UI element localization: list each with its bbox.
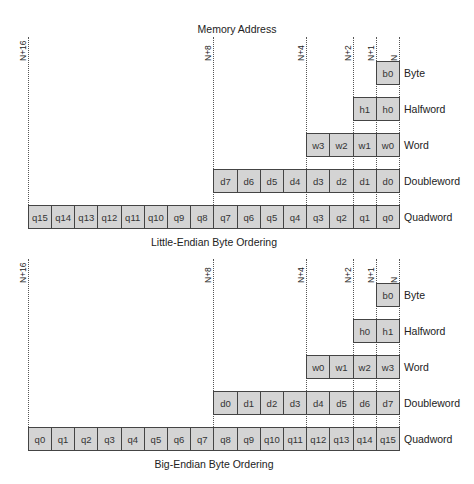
- big-endian-cell-b0: b0: [376, 283, 400, 307]
- little-endian-row-label-quadword: Quadword: [404, 205, 452, 229]
- little-endian-cell-q0: q0: [376, 205, 400, 229]
- little-endian-row-label-halfword: Halfword: [404, 97, 445, 121]
- big-endian-cell-d4: d4: [306, 391, 330, 415]
- little-endian-cell-q5: q5: [260, 205, 284, 229]
- big-endian-cell-d0: d0: [213, 391, 237, 415]
- little-endian-cell-q8: q8: [190, 205, 214, 229]
- little-endian-cell-d0: d0: [376, 169, 400, 193]
- big-endian-cell-h1: h1: [376, 319, 400, 343]
- big-endian-cell-q0: q0: [28, 427, 52, 451]
- little-endian-cell-q14: q14: [51, 205, 75, 229]
- big-endian-cell-d6: d6: [353, 391, 377, 415]
- little-endian-address-marker: N+4: [296, 45, 306, 61]
- little-endian-cell-q9: q9: [167, 205, 191, 229]
- big-endian-cell-h0: h0: [353, 319, 377, 343]
- big-endian-cell-d2: d2: [260, 391, 284, 415]
- little-endian-address-marker: N+16: [18, 40, 28, 61]
- big-endian-caption: Big-Endian Byte Ordering: [154, 458, 273, 470]
- big-endian-cell-q7: q7: [190, 427, 214, 451]
- big-endian-cell-q3: q3: [97, 427, 121, 451]
- little-endian-cell-d5: d5: [260, 169, 284, 193]
- big-endian-address-marker: N+16: [18, 262, 28, 283]
- little-endian-cell-w3: w3: [306, 133, 330, 157]
- little-endian-cell-q10: q10: [144, 205, 168, 229]
- big-endian-cell-w0: w0: [306, 355, 330, 379]
- little-endian-address-marker: N+8: [203, 45, 213, 61]
- big-endian-cell-q9: q9: [237, 427, 261, 451]
- big-endian-cell-q12: q12: [306, 427, 330, 451]
- big-endian-address-marker: N+1: [366, 267, 376, 283]
- big-endian-address-marker: N+4: [296, 267, 306, 283]
- little-endian-cell-w0: w0: [376, 133, 400, 157]
- big-endian-row-label-quadword: Quadword: [404, 427, 452, 451]
- big-endian-row-label-byte: Byte: [404, 283, 425, 307]
- big-endian-cell-w1: w1: [329, 355, 353, 379]
- little-endian-cell-q2: q2: [329, 205, 353, 229]
- big-endian-cell-q1: q1: [51, 427, 75, 451]
- little-endian-cell-w1: w1: [353, 133, 377, 157]
- little-endian-address-marker: N+1: [366, 45, 376, 61]
- big-endian-cell-d7: d7: [376, 391, 400, 415]
- big-endian-cell-q5: q5: [144, 427, 168, 451]
- little-endian-row-label-doubleword: Doubleword: [404, 169, 460, 193]
- little-endian-address-marker: N+2: [343, 45, 353, 61]
- little-endian-cell-q15: q15: [28, 205, 52, 229]
- big-endian-cell-d1: d1: [237, 391, 261, 415]
- big-endian-address-marker: N+8: [203, 267, 213, 283]
- big-endian-guide-line-nplus16: [28, 259, 29, 451]
- big-endian-cell-w3: w3: [376, 355, 400, 379]
- little-endian-cell-q12: q12: [97, 205, 121, 229]
- big-endian-cell-q2: q2: [74, 427, 98, 451]
- big-endian-address-marker: N+2: [343, 267, 353, 283]
- little-endian-cell-d3: d3: [306, 169, 330, 193]
- little-endian-cell-q11: q11: [121, 205, 145, 229]
- big-endian-cell-q8: q8: [213, 427, 237, 451]
- little-endian-cell-w2: w2: [329, 133, 353, 157]
- big-endian-cell-q6: q6: [167, 427, 191, 451]
- big-endian-cell-q11: q11: [283, 427, 307, 451]
- little-endian-cell-d7: d7: [213, 169, 237, 193]
- little-endian-cell-q4: q4: [283, 205, 307, 229]
- little-endian-guide-line-nplus16: [28, 37, 29, 229]
- memory-address-title: Memory Address: [198, 23, 277, 35]
- little-endian-cell-b0: b0: [376, 61, 400, 85]
- big-endian-cell-q15: q15: [376, 427, 400, 451]
- little-endian-cell-q6: q6: [237, 205, 261, 229]
- big-endian-row-label-word: Word: [404, 355, 429, 379]
- little-endian-cell-d2: d2: [329, 169, 353, 193]
- big-endian-row-label-halfword: Halfword: [404, 319, 445, 343]
- big-endian-cell-q4: q4: [121, 427, 145, 451]
- little-endian-row-label-byte: Byte: [404, 61, 425, 85]
- little-endian-cell-q3: q3: [306, 205, 330, 229]
- little-endian-row-label-word: Word: [404, 133, 429, 157]
- little-endian-cell-d1: d1: [353, 169, 377, 193]
- big-endian-cell-q14: q14: [353, 427, 377, 451]
- little-endian-cell-h0: h0: [376, 97, 400, 121]
- little-endian-cell-d6: d6: [237, 169, 261, 193]
- little-endian-caption: Little-Endian Byte Ordering: [151, 236, 277, 248]
- little-endian-cell-h1: h1: [353, 97, 377, 121]
- big-endian-cell-q13: q13: [329, 427, 353, 451]
- little-endian-cell-q13: q13: [74, 205, 98, 229]
- little-endian-cell-d4: d4: [283, 169, 307, 193]
- big-endian-cell-w2: w2: [353, 355, 377, 379]
- little-endian-cell-q1: q1: [353, 205, 377, 229]
- little-endian-cell-q7: q7: [213, 205, 237, 229]
- big-endian-row-label-doubleword: Doubleword: [404, 391, 460, 415]
- big-endian-cell-q10: q10: [260, 427, 284, 451]
- big-endian-cell-d3: d3: [283, 391, 307, 415]
- big-endian-cell-d5: d5: [329, 391, 353, 415]
